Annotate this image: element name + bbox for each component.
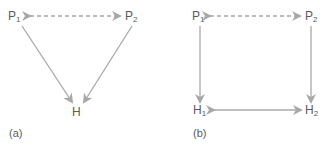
caption-b: (b) xyxy=(193,127,206,139)
node-b-p2: P2 xyxy=(305,10,317,24)
diagram-b-edges xyxy=(200,16,311,110)
edge-a-p2-h xyxy=(84,26,132,102)
diagram-canvas xyxy=(0,0,331,148)
node-b-h1: H1 xyxy=(193,104,206,118)
node-a-h: H xyxy=(72,106,81,118)
caption-a: (a) xyxy=(9,127,22,139)
diagram-a-edges xyxy=(22,16,132,102)
node-b-h2: H2 xyxy=(305,104,318,118)
node-a-p1: P1 xyxy=(8,10,20,24)
node-b-p1: P1 xyxy=(192,10,204,24)
edge-a-p1-h xyxy=(22,26,72,102)
node-a-p2: P2 xyxy=(125,10,137,24)
